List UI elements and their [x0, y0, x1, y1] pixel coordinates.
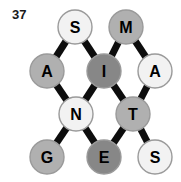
graph-node[interactable]: A: [30, 54, 64, 88]
graph-node[interactable]: T: [116, 97, 150, 131]
graph-node[interactable]: N: [59, 97, 93, 131]
graph-node-label: G: [41, 149, 53, 166]
edge-layer: [47, 27, 155, 157]
graph-node[interactable]: I: [87, 54, 121, 88]
graph-node-label: S: [70, 19, 81, 36]
graph-node-label: A: [149, 63, 161, 80]
graph-node[interactable]: G: [30, 140, 64, 174]
graph-node-label: A: [41, 63, 53, 80]
graph-node[interactable]: E: [87, 140, 121, 174]
graph-node[interactable]: S: [58, 10, 92, 44]
graph-node[interactable]: M: [109, 10, 143, 44]
graph-node-label: E: [99, 149, 110, 166]
graph-diagram: SMAIANTGES: [0, 0, 181, 182]
graph-node-label: M: [119, 19, 132, 36]
graph-node[interactable]: S: [138, 140, 172, 174]
graph-node[interactable]: A: [138, 54, 172, 88]
graph-node-label: N: [70, 106, 82, 123]
graph-node-label: T: [128, 106, 138, 123]
graph-node-label: S: [150, 149, 161, 166]
figure-canvas: 37 SMAIANTGES: [0, 0, 181, 182]
node-layer: SMAIANTGES: [30, 10, 172, 174]
graph-node-label: I: [102, 63, 106, 80]
